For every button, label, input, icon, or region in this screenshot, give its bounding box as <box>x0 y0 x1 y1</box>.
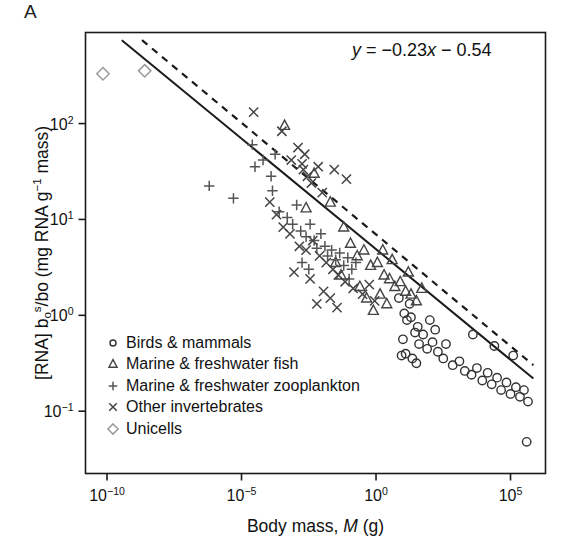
data-point-circle <box>426 316 434 324</box>
data-point-circle <box>469 330 477 338</box>
x-tick-label: 100 <box>364 485 388 505</box>
y-tick-label: 100 <box>24 305 74 325</box>
data-point-plus <box>287 219 297 229</box>
legend: Birds & mammalsMarine & freshwater fishM… <box>100 332 360 440</box>
x-tick-label: 10−10 <box>89 485 125 505</box>
data-point-plus <box>258 155 268 165</box>
data-point-circle <box>442 340 450 348</box>
circle-glyph <box>104 334 122 352</box>
data-point-triangle <box>378 245 388 254</box>
data-point-plus <box>291 200 301 210</box>
data-point-triangle <box>382 298 392 307</box>
data-point-circle <box>110 340 116 346</box>
x-tick-label: 10−5 <box>227 485 257 505</box>
data-point-plus <box>109 381 118 390</box>
diamond-glyph <box>104 420 122 438</box>
triangle-icon <box>100 355 126 373</box>
data-point-diamond <box>97 68 109 80</box>
data-point-plus <box>282 212 292 222</box>
legend-item-label: Birds & mammals <box>126 334 251 352</box>
data-point-plus <box>270 149 280 159</box>
y-tick-exponent: 2 <box>68 113 74 125</box>
cross-glyph <box>104 398 122 416</box>
data-point-plus <box>204 181 214 191</box>
data-point-circle <box>524 397 532 405</box>
data-point-cross <box>277 127 286 136</box>
data-point-diamond <box>108 424 118 434</box>
data-point-circle <box>497 386 505 394</box>
data-point-cross <box>314 162 323 171</box>
plus-icon <box>100 377 126 395</box>
data-point-cross <box>365 280 374 289</box>
data-point-circle <box>483 369 491 377</box>
legend-item-label: Marine & freshwater zooplankton <box>126 377 360 395</box>
data-point-triangle <box>375 289 385 298</box>
plot-area <box>0 0 575 553</box>
x-tick-exponent: 5 <box>516 485 522 497</box>
data-point-triangle <box>385 273 395 282</box>
data-point-circle <box>419 330 427 338</box>
data-point-plus <box>305 219 315 229</box>
legend-item-triangle[interactable]: Marine & freshwater fish <box>100 354 360 376</box>
data-point-plus <box>267 185 277 195</box>
y-tick-exponent: 0 <box>68 305 74 317</box>
data-point-cross <box>285 229 294 238</box>
data-point-plus <box>297 257 307 267</box>
data-point-cross <box>306 274 315 283</box>
data-point-triangle <box>395 276 405 285</box>
data-point-cross <box>300 150 309 159</box>
data-point-circle <box>522 438 530 446</box>
data-point-cross <box>109 403 117 411</box>
data-point-cross <box>330 165 339 174</box>
y-tick-label: 10−1 <box>24 401 74 421</box>
data-point-plus <box>266 171 276 181</box>
data-point-circle <box>428 338 436 346</box>
circle-icon <box>100 334 126 352</box>
y-tick-exponent: −1 <box>61 401 73 413</box>
data-point-plus <box>304 264 314 274</box>
data-point-cross <box>289 268 298 277</box>
regression-lines <box>122 40 534 378</box>
legend-item-diamond[interactable]: Unicells <box>100 418 360 440</box>
legend-item-label: Unicells <box>126 420 182 438</box>
legend-item-label: Marine & freshwater fish <box>126 355 299 373</box>
data-point-circle <box>455 357 463 365</box>
figure-panel: A y = −0.23x − 0.54 [RNA] bos/bo (mg RNA… <box>0 0 575 553</box>
data-point-circle <box>520 386 528 394</box>
y-tick-label: 102 <box>24 113 74 133</box>
data-point-circle <box>502 378 510 386</box>
data-point-cross <box>249 107 258 116</box>
legend-item-label: Other invertebrates <box>126 398 263 416</box>
data-point-circle <box>431 325 439 333</box>
diamond-icon <box>100 420 126 438</box>
series-triangle <box>280 120 427 314</box>
data-point-plus <box>228 193 238 203</box>
data-point-plus <box>247 139 257 149</box>
predicted-slope-line <box>142 40 533 365</box>
data-point-triangle <box>109 360 117 368</box>
data-point-triangle <box>368 305 378 314</box>
data-point-plus <box>296 226 306 236</box>
x-tick-exponent: −10 <box>107 485 125 497</box>
data-point-cross <box>287 155 296 164</box>
data-point-cross <box>326 293 335 302</box>
data-point-circle <box>512 383 520 391</box>
data-point-cross <box>342 175 351 184</box>
data-point-circle <box>415 340 423 348</box>
data-point-plus <box>250 162 260 172</box>
data-point-circle <box>493 373 501 381</box>
legend-item-circle[interactable]: Birds & mammals <box>100 332 360 354</box>
data-point-plus <box>316 229 326 239</box>
series-circle <box>395 294 533 446</box>
data-point-circle <box>439 354 447 362</box>
data-point-triangle <box>346 238 356 247</box>
data-point-diamond <box>138 65 150 77</box>
series-plus <box>204 139 361 284</box>
series-diamond <box>97 65 151 80</box>
x-tick-label: 105 <box>499 485 523 505</box>
data-point-circle <box>473 364 481 372</box>
legend-item-plus[interactable]: Marine & freshwater zooplankton <box>100 375 360 397</box>
data-point-cross <box>265 198 274 207</box>
legend-item-cross[interactable]: Other invertebrates <box>100 397 360 419</box>
plus-glyph <box>104 377 122 395</box>
